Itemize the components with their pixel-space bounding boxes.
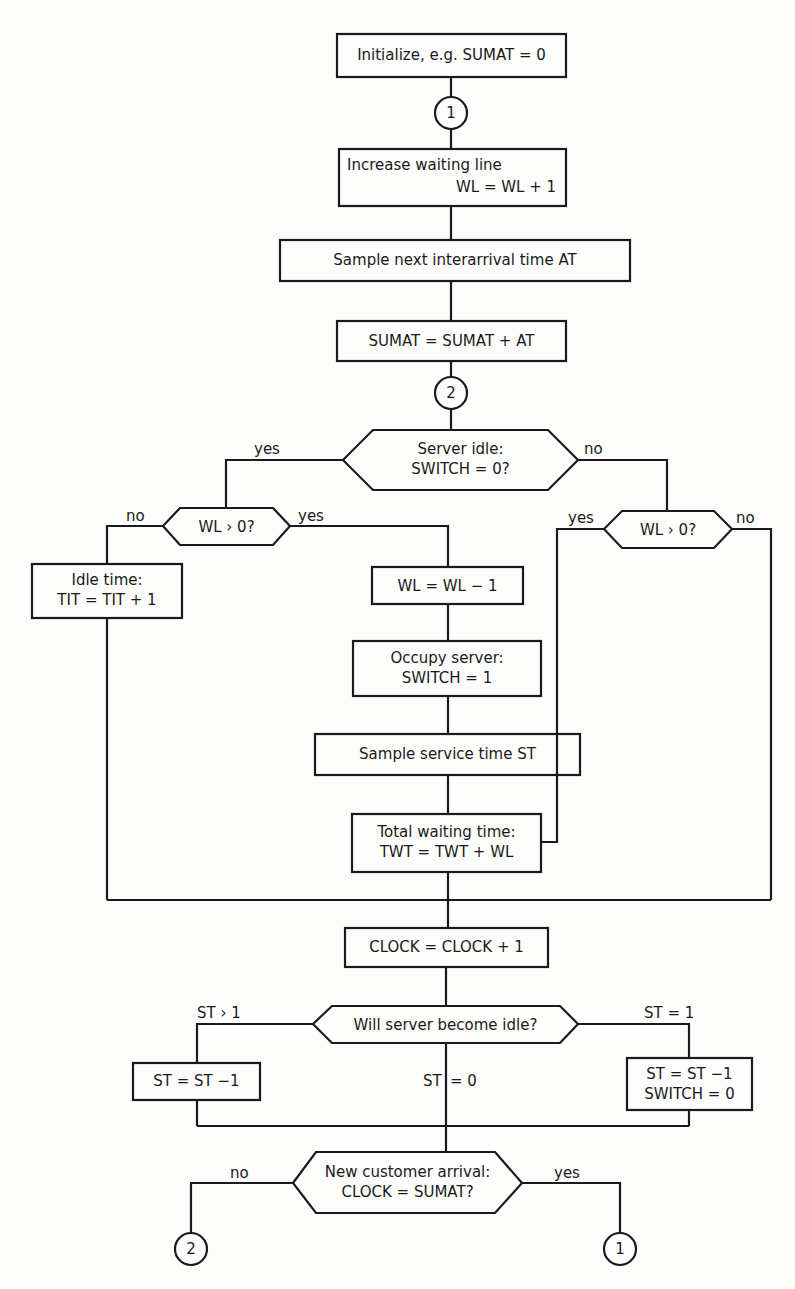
flowchart-canvas: Initialize, e.g. SUMAT = 0 1 Increase wa… — [0, 0, 795, 1289]
st-minus-left-text: ST = ST −1 — [153, 1072, 239, 1090]
increase-wl-line2: WL = WL + 1 — [456, 178, 556, 197]
will-idle-decision: Will server become idle? — [313, 1015, 578, 1035]
wl-right-decision: WL › 0? — [604, 520, 732, 540]
st-minus-left-box: ST = ST −1 — [133, 1071, 260, 1091]
connector-1-top: 1 — [435, 103, 467, 123]
sample-st-text: Sample service time ST — [359, 745, 536, 763]
wl-right-yes-label: yes — [568, 509, 594, 528]
wl-minus-text: WL = WL − 1 — [397, 577, 497, 595]
sumat-text: SUMAT = SUMAT + AT — [369, 332, 535, 350]
wl-right-text: WL › 0? — [640, 521, 696, 539]
clock-text: CLOCK = CLOCK + 1 — [369, 938, 524, 956]
new-customer-no-label: no — [230, 1164, 249, 1183]
wl-left-yes-label: yes — [298, 507, 324, 526]
increase-wl-line1: Increase waiting line — [347, 156, 502, 175]
init-text: Initialize, e.g. SUMAT = 0 — [357, 46, 546, 64]
connector-1-bottom: 1 — [604, 1239, 636, 1259]
connector-2-bottom: 2 — [175, 1239, 207, 1259]
st-minus-right-line1: ST = ST −1 — [627, 1064, 752, 1084]
connector-1-bottom-label: 1 — [615, 1240, 625, 1258]
new-customer-line2: CLOCK = SUMAT? — [293, 1182, 522, 1202]
clock-box: CLOCK = CLOCK + 1 — [345, 937, 548, 957]
new-customer-line1: New customer arrival: — [293, 1162, 522, 1182]
connector-1-top-label: 1 — [446, 104, 456, 122]
new-customer-decision: New customer arrival: CLOCK = SUMAT? — [293, 1162, 522, 1202]
st-eq1-label: ST = 1 — [644, 1004, 694, 1023]
sample-st-box: Sample service time ST — [315, 744, 580, 764]
st-gt1-label: ST › 1 — [197, 1004, 241, 1023]
occupy-line2: SWITCH = 1 — [353, 668, 541, 688]
occupy-box: Occupy server: SWITCH = 1 — [353, 648, 541, 688]
server-idle-line2: SWITCH = 0? — [343, 459, 578, 479]
sumat-box: SUMAT = SUMAT + AT — [337, 331, 566, 351]
init-box: Initialize, e.g. SUMAT = 0 — [337, 45, 566, 65]
server-idle-no-label: no — [584, 440, 603, 459]
connector-2-top-label: 2 — [446, 384, 456, 402]
occupy-line1: Occupy server: — [353, 648, 541, 668]
wl-left-decision: WL › 0? — [163, 517, 290, 537]
connector-2-top: 2 — [435, 383, 467, 403]
sample-at-box: Sample next interarrival time AT — [280, 250, 630, 270]
wl-left-no-label: no — [126, 507, 145, 526]
idle-time-line2: TIT = TIT + 1 — [32, 590, 182, 610]
connector-2-bottom-label: 2 — [186, 1240, 196, 1258]
idle-time-box: Idle time: TIT = TIT + 1 — [32, 570, 182, 610]
server-idle-yes-label: yes — [254, 440, 280, 459]
idle-time-line1: Idle time: — [32, 570, 182, 590]
st-minus-right-box: ST = ST −1 SWITCH = 0 — [627, 1064, 752, 1104]
wl-left-text: WL › 0? — [198, 518, 254, 536]
will-idle-text: Will server become idle? — [354, 1016, 538, 1034]
wl-minus-box: WL = WL − 1 — [372, 576, 523, 596]
sample-at-text: Sample next interarrival time AT — [333, 251, 576, 269]
total-wait-line1: Total waiting time: — [352, 822, 541, 842]
total-wait-line2: TWT = TWT + WL — [352, 842, 541, 862]
server-idle-decision: Server idle: SWITCH = 0? — [343, 439, 578, 479]
st-eq0-label-b: = 0 — [450, 1072, 477, 1091]
wl-right-no-label: no — [736, 509, 755, 528]
st-eq0-label-a: ST — [423, 1072, 442, 1091]
st-minus-right-line2: SWITCH = 0 — [627, 1084, 752, 1104]
new-customer-yes-label: yes — [554, 1164, 580, 1183]
total-wait-box: Total waiting time: TWT = TWT + WL — [352, 822, 541, 862]
server-idle-line1: Server idle: — [343, 439, 578, 459]
